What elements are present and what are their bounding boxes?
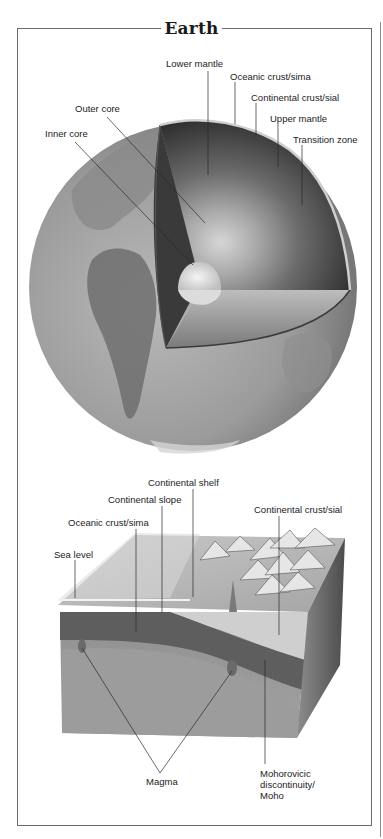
illustration <box>0 0 383 839</box>
block-label-continental-shelf: Continental shelf <box>148 477 219 488</box>
block-label-continental-slope: Continental slope <box>108 494 181 505</box>
block-label-continental-crust-sial: Continental crust/sial <box>254 504 342 515</box>
earth-globe <box>29 120 357 453</box>
block-label-oceanic-crust-sima: Oceanic crust/sima <box>68 517 149 528</box>
globe-label-lower-mantle: Lower mantle <box>166 58 223 69</box>
magma-plume-right <box>227 660 237 676</box>
block-label-magma: Magma <box>146 776 178 787</box>
globe-label-inner-core: Inner core <box>45 128 88 139</box>
block-label-sea-level: Sea level <box>54 549 93 560</box>
globe-label-upper-mantle: Upper mantle <box>270 113 327 124</box>
crust-block-diagram <box>58 528 345 738</box>
globe-label-continental-crust-sial: Continental crust/sial <box>251 92 339 103</box>
globe-label-oceanic-crust-sima: Oceanic crust/sima <box>230 71 311 82</box>
globe-label-transition-zone: Transition zone <box>293 134 358 145</box>
magma-plume-left <box>78 639 86 653</box>
globe-label-outer-core: Outer core <box>75 103 120 114</box>
block-label-moho: Mohorovicic discontinuity/ Moho <box>260 768 315 801</box>
